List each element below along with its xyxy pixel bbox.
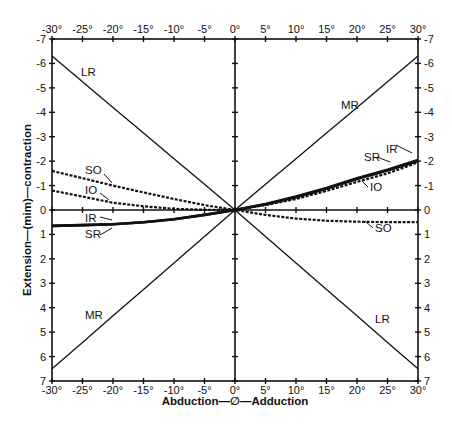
y-tick-label-right: -2 [424, 155, 434, 167]
label-mr-upper: MR [341, 99, 359, 111]
y-tick-label-left: -7 [36, 33, 46, 45]
x-axis-title: Abduction—∅—Adduction [162, 395, 309, 407]
label-sr-left: SR [85, 228, 101, 240]
label-io-left: IO [85, 184, 97, 196]
y-tick-label-left: 1 [40, 228, 46, 240]
y-axis-title: Extension—(mim)—contraction [21, 124, 33, 296]
y-tick-label-right: 0 [424, 204, 430, 216]
x-tick-label-top: 5° [260, 23, 271, 35]
y-tick-label-left: -6 [36, 57, 46, 69]
y-tick-label-right: -3 [424, 131, 434, 143]
y-tick-label-left: 7 [40, 375, 46, 387]
x-tick-label-top: -15° [133, 23, 153, 35]
x-tick-label-top: 25° [379, 23, 396, 35]
x-tick-label-bottom: 25° [379, 384, 396, 396]
y-tick-label-left: -3 [36, 131, 46, 143]
x-tick-label-top: -20° [103, 23, 123, 35]
y-tick-label-left: -1 [36, 180, 46, 192]
y-tick-label-right: 3 [424, 277, 430, 289]
label-so-left: SO [85, 164, 102, 176]
label-lr-lower: LR [375, 313, 390, 325]
label-ir-left: IR [85, 212, 97, 224]
x-tick-label-bottom: -15° [133, 384, 153, 396]
y-tick-label-right: 2 [424, 253, 430, 265]
y-tick-label-right: 6 [424, 351, 430, 363]
x-tick-label-top: 20° [349, 23, 366, 35]
y-tick-label-left: 5 [40, 326, 46, 338]
y-tick-label-right: -1 [424, 180, 434, 192]
label-ir-right: IR [386, 143, 398, 155]
y-tick-label-left: 3 [40, 277, 46, 289]
y-tick-label-right: -4 [424, 106, 434, 118]
y-tick-label-right: 1 [424, 228, 430, 240]
muscle-action-chart: -30°-30°-25°-25°-20°-20°-15°-15°-10°-10°… [0, 0, 452, 424]
x-tick-label-bottom: 20° [349, 384, 366, 396]
x-tick-label-top: 10° [288, 23, 305, 35]
x-tick-label-top: 0° [230, 23, 241, 35]
y-tick-label-left: -2 [36, 155, 46, 167]
y-tick-label-left: 6 [40, 351, 46, 363]
label-lr-upper: LR [81, 66, 96, 78]
y-tick-label-right: -6 [424, 57, 434, 69]
x-tick-label-bottom: 15° [318, 384, 335, 396]
y-tick-label-right: -5 [424, 82, 434, 94]
y-tick-label-right: 7 [424, 375, 430, 387]
x-tick-label-top: -10° [164, 23, 184, 35]
label-so-right: SO [375, 222, 392, 234]
x-tick-label-bottom: -25° [72, 384, 92, 396]
y-tick-label-right: 5 [424, 326, 430, 338]
y-tick-label-right: -7 [424, 33, 434, 45]
y-tick-label-right: 4 [424, 302, 430, 314]
x-tick-label-top: -5° [197, 23, 211, 35]
y-tick-label-left: 0 [40, 204, 46, 216]
x-tick-label-bottom: -20° [103, 384, 123, 396]
x-tick-label-top: 15° [318, 23, 335, 35]
y-tick-label-left: -4 [36, 106, 46, 118]
y-tick-label-left: 4 [40, 302, 46, 314]
y-tick-label-left: 2 [40, 253, 46, 265]
label-mr-lower: MR [85, 309, 103, 321]
label-io-right: IO [370, 181, 382, 193]
x-tick-label-top: -25° [72, 23, 92, 35]
y-tick-label-left: -5 [36, 82, 46, 94]
